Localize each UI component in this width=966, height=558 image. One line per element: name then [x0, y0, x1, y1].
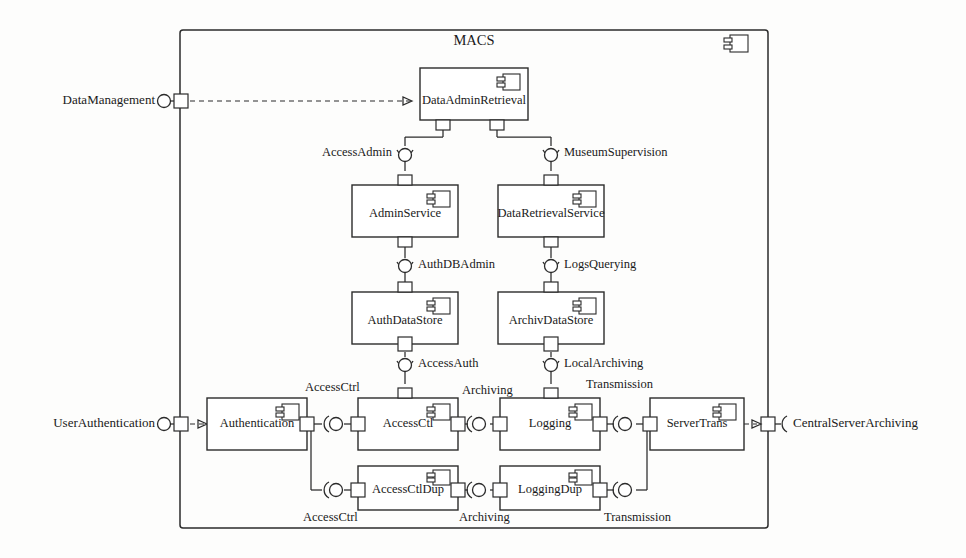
- assembly-connector-localarchiving[interactable]: [543, 359, 559, 372]
- interface-label-authdbadmin: AuthDBAdmin: [418, 257, 496, 271]
- external-interface-datamanagement[interactable]: [158, 94, 189, 108]
- interface-label-accessctrl-dup: AccessCtrl: [303, 510, 358, 524]
- assembly-connector-archiving-dup[interactable]: [467, 482, 485, 498]
- external-interface-label-userauthentication: UserAuthentication: [53, 415, 155, 430]
- interface-label-archiving-dup: Archiving: [459, 510, 510, 524]
- interface-label-archiving-top: Archiving: [462, 383, 513, 397]
- component-label-accessctl: AccessCtl: [383, 416, 434, 430]
- assembly-connector-logsquerying[interactable]: [543, 260, 559, 273]
- interface-label-logsquerying: LogsQuerying: [564, 257, 637, 271]
- external-interface-userauthentication[interactable]: [158, 417, 189, 431]
- component-label-authentication: Authentication: [220, 416, 295, 430]
- interface-label-localarchiving: LocalArchiving: [564, 356, 644, 370]
- delegation-connector-userauthentication: [190, 420, 207, 428]
- delegation-connector-datamanagement: [190, 97, 412, 105]
- assembly-connector-museumsupervision[interactable]: [543, 149, 559, 162]
- interface-label-accessctrl-top: AccessCtrl: [305, 380, 360, 394]
- wire-dar-to-adminservice: [405, 128, 443, 171]
- component-label-accessctldup: AccessCtlDup: [372, 482, 444, 496]
- wire-authentication-branch-to-accessctldup: [311, 431, 351, 490]
- assembly-connector-transmission-dup[interactable]: [613, 482, 631, 498]
- interface-label-transmission-dup: Transmission: [604, 510, 672, 524]
- assembly-connector-authdbadmin[interactable]: [397, 260, 413, 273]
- external-interface-centralserverarchiving[interactable]: [761, 416, 787, 432]
- assembly-connector-transmission-top[interactable]: [613, 416, 631, 432]
- assembly-connector-accessctrl-dup[interactable]: [324, 482, 342, 498]
- assembly-connector-accessauth[interactable]: [397, 359, 413, 372]
- interface-label-museumsupervision: MuseumSupervision: [564, 145, 668, 159]
- component-label-archivdatastore: ArchivDataStore: [509, 313, 594, 327]
- wire-loggingdup-branch-to-servertrans: [607, 431, 647, 490]
- external-interface-label-datamanagement: DataManagement: [63, 92, 156, 107]
- component-stereotype-icon: [724, 35, 748, 52]
- assembly-connector-accessctrl-top[interactable]: [324, 416, 342, 432]
- component-label-loggingdup: LoggingDup: [518, 482, 582, 496]
- interface-label-transmission-top: Transmission: [586, 377, 654, 391]
- interface-label-accessadmin: AccessAdmin: [322, 145, 393, 159]
- external-interface-label-centralserverarchiving: CentralServerArchiving: [793, 415, 918, 430]
- assembly-connector-accessadmin[interactable]: [397, 149, 413, 162]
- wire-dar-to-dataretrievalservice: [497, 128, 551, 171]
- component-label-authdatastore: AuthDataStore: [368, 313, 443, 327]
- diagram-svg: MACS DataManagement UserAuthentication: [0, 0, 966, 558]
- component-label-dataretrievalservice: DataRetrievalService: [498, 206, 605, 220]
- page-title: MACS: [453, 32, 494, 48]
- delegation-connector-centralserverarchiving: [744, 420, 761, 428]
- assembly-connector-archiving-top[interactable]: [467, 416, 485, 432]
- interface-label-accessauth: AccessAuth: [418, 356, 479, 370]
- component-label-dataadminretrieval: DataAdminRetrieval: [422, 93, 527, 107]
- component-label-logging: Logging: [529, 416, 572, 430]
- component-label-adminservice: AdminService: [369, 206, 442, 220]
- component-diagram-canvas: MACS DataManagement UserAuthentication: [0, 0, 966, 558]
- component-label-servertrans: ServerTrans: [667, 416, 728, 430]
